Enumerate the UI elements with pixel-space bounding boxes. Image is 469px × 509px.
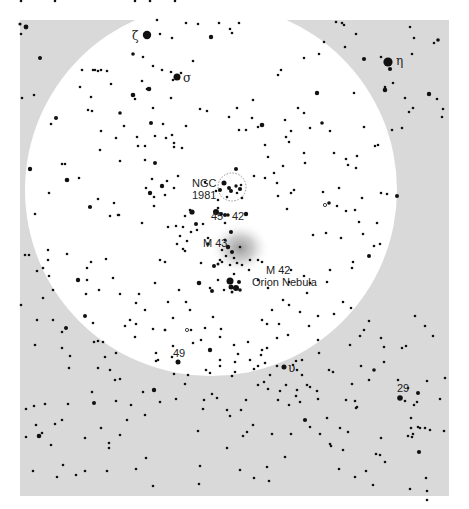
star — [341, 22, 344, 25]
star — [209, 372, 212, 375]
star — [336, 205, 339, 208]
star — [267, 156, 270, 159]
star — [233, 285, 239, 291]
star — [288, 141, 291, 144]
star — [326, 417, 329, 420]
star — [83, 314, 87, 318]
star — [173, 373, 176, 376]
star — [115, 400, 118, 403]
star — [333, 152, 336, 155]
star — [177, 175, 180, 178]
star — [142, 391, 145, 394]
star — [231, 32, 234, 35]
star — [286, 208, 289, 211]
star — [229, 230, 233, 234]
star — [261, 319, 264, 322]
label-ngc-1981-line1: NGC — [192, 177, 217, 189]
star — [118, 214, 121, 217]
star — [141, 80, 144, 83]
star — [145, 187, 148, 190]
star — [202, 223, 205, 226]
star — [151, 178, 154, 181]
star — [97, 70, 100, 73]
label-sigma: σ — [183, 71, 191, 85]
star — [175, 398, 178, 401]
star — [149, 121, 153, 125]
open-star-marker — [185, 328, 188, 331]
star — [388, 67, 392, 71]
star — [354, 400, 357, 403]
label-eta: η — [396, 54, 403, 68]
star — [176, 243, 179, 246]
star — [444, 377, 447, 380]
star — [309, 386, 312, 389]
star — [180, 72, 183, 75]
label-m42: M 42 — [266, 264, 290, 276]
star — [223, 289, 226, 292]
star — [263, 381, 266, 384]
star — [315, 91, 319, 95]
star — [439, 398, 442, 401]
star — [306, 292, 309, 295]
star — [361, 197, 364, 200]
star — [380, 56, 383, 59]
star — [104, 356, 107, 359]
star — [372, 368, 376, 372]
star — [410, 417, 413, 420]
star — [384, 461, 387, 464]
star — [110, 83, 113, 86]
star — [144, 309, 147, 312]
star — [202, 408, 205, 411]
star — [211, 393, 214, 396]
star — [229, 415, 232, 418]
star — [303, 57, 306, 60]
star — [164, 329, 167, 332]
star — [317, 339, 320, 342]
star — [412, 433, 415, 436]
star — [277, 399, 280, 402]
star — [172, 317, 175, 320]
star — [34, 213, 37, 216]
star — [373, 245, 376, 248]
star — [146, 88, 149, 91]
star — [416, 401, 419, 404]
star — [276, 182, 279, 185]
star — [192, 342, 195, 345]
star — [333, 313, 336, 316]
star — [409, 488, 412, 491]
star — [312, 234, 315, 237]
star — [332, 371, 335, 374]
star — [344, 46, 347, 49]
star — [226, 409, 229, 412]
star — [380, 337, 383, 340]
star — [290, 192, 293, 195]
star — [303, 152, 306, 155]
star — [229, 264, 232, 267]
star — [349, 344, 352, 347]
star — [143, 31, 151, 39]
star — [184, 383, 187, 386]
star-chart: ζσηNGC19814542M 43M 42Orion Nebula49υ29 — [0, 0, 469, 509]
star — [233, 344, 236, 347]
star — [241, 264, 244, 267]
star — [123, 125, 126, 128]
star — [301, 359, 304, 362]
star — [98, 289, 101, 292]
star — [368, 379, 371, 382]
star — [374, 145, 377, 148]
star — [115, 137, 118, 140]
star — [160, 184, 164, 188]
star — [229, 189, 233, 193]
star — [124, 325, 127, 328]
star — [189, 309, 192, 312]
star — [304, 162, 307, 165]
star — [301, 374, 304, 377]
star — [221, 249, 224, 252]
label-zeta: ζ — [132, 29, 139, 43]
star — [165, 137, 168, 140]
star — [189, 209, 194, 214]
star — [212, 316, 215, 319]
star — [372, 484, 375, 487]
star — [173, 146, 176, 149]
star — [106, 470, 109, 473]
